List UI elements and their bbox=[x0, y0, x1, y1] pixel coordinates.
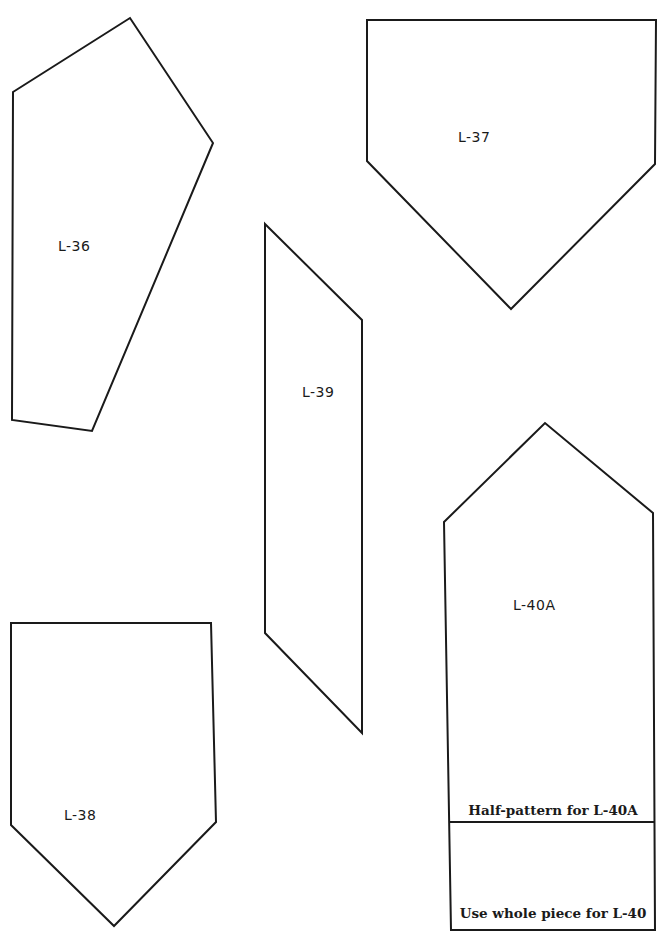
piece-l39-outline bbox=[265, 224, 362, 733]
piece-l40a-label: L-40A bbox=[513, 597, 556, 613]
piece-l38-label: L-38 bbox=[64, 807, 96, 823]
piece-l36-label: L-36 bbox=[58, 238, 90, 254]
piece-l36-outline bbox=[12, 18, 213, 431]
piece-l38-outline bbox=[11, 623, 216, 926]
piece-l40a-outline bbox=[444, 423, 655, 930]
piece-l37-label: L-37 bbox=[458, 129, 490, 145]
half-pattern-note: Half-pattern for L-40A bbox=[468, 802, 637, 818]
piece-l39-label: L-39 bbox=[302, 384, 334, 400]
piece-l37-outline bbox=[367, 20, 656, 309]
whole-piece-note: Use whole piece for L-40 bbox=[460, 905, 647, 921]
